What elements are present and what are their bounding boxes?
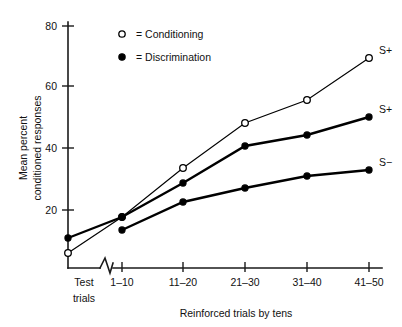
data-point-discrim-sminus-41-50	[366, 167, 372, 173]
x-tick-label-21-30: 21–30	[230, 276, 259, 288]
y-axis-title-line1: Mean percent	[17, 116, 29, 180]
x-tick-label-11-20: 11–20	[169, 276, 198, 288]
x-axis-title: Reinforced trials by tens	[180, 307, 293, 319]
data-point-discrim-sminus-31-40	[304, 173, 310, 179]
data-point-discrim-sminus-11-20	[180, 199, 186, 205]
series-discrimination-splus-line	[68, 117, 369, 238]
x-tick-label-41-50: 41–50	[354, 276, 383, 288]
data-point-discrim-splus-31-40	[304, 132, 310, 138]
legend-marker-conditioning	[119, 31, 125, 37]
y-tick-label-20: 20	[45, 204, 57, 216]
data-point-discrim-splus-11-20	[180, 180, 186, 186]
data-point-conditioning-21-30	[242, 120, 249, 127]
data-point-conditioning-31-40	[304, 97, 311, 104]
legend-label-discrimination: = Discrimination	[136, 51, 211, 63]
y-tick-label-60: 60	[45, 80, 57, 92]
data-point-conditioning-test	[65, 250, 72, 257]
data-point-discrim-sminus-21-30	[242, 185, 248, 191]
y-axis-title: Mean percent conditioned responses	[17, 95, 43, 200]
x-axis-break-icon	[100, 258, 113, 273]
x-tick-label-1-10: 1–10	[110, 276, 134, 288]
axes-group	[68, 22, 382, 273]
data-point-discrim-splus-41-50	[366, 114, 372, 120]
series-end-label-discrimination-splus: S+	[379, 103, 392, 115]
legend: = Conditioning = Discrimination	[119, 28, 211, 63]
data-point-discrim-sminus-1-10	[119, 227, 125, 233]
legend-marker-discrimination	[119, 54, 125, 60]
x-tick-label-31-40: 31–40	[292, 276, 321, 288]
data-point-conditioning-41-50	[366, 55, 373, 62]
y-tick-label-80: 80	[45, 20, 57, 32]
series-conditioning: S+	[65, 44, 392, 256]
series-discrimination-sminus-line	[122, 170, 369, 230]
series-end-label-conditioning: S+	[379, 44, 392, 56]
data-point-discrim-splus-21-30	[242, 143, 248, 149]
y-ticks-group: 80 60 40 20	[45, 20, 74, 216]
data-point-conditioning-11-20	[180, 165, 187, 172]
x-ticks-group	[122, 262, 369, 272]
data-point-discrim-splus-test	[65, 235, 71, 241]
x-tick-labels-group: Test trials 1–10 11–20 21–30 31–40 41–50	[73, 276, 384, 304]
series-end-label-discrimination-sminus: S−	[379, 156, 392, 168]
y-tick-label-40: 40	[45, 142, 57, 154]
legend-label-conditioning: = Conditioning	[136, 28, 204, 40]
line-chart-svg: 80 60 40 20 Test trials 1–10 11–20 21–30…	[0, 0, 402, 327]
chart-figure: 80 60 40 20 Test trials 1–10 11–20 21–30…	[0, 0, 402, 327]
series-conditioning-line	[68, 58, 369, 253]
x-tick-label-test-line2: trials	[73, 292, 95, 304]
x-tick-label-test-line1: Test	[74, 276, 93, 288]
data-point-discrim-splus-1-10	[119, 214, 125, 220]
y-axis-title-line2: conditioned responses	[31, 95, 43, 200]
